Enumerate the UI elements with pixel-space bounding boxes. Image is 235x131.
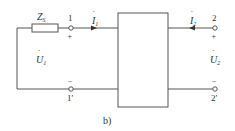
terminal-2-prime-label: 2′ [211,93,218,103]
terminal-1-prime [69,87,73,91]
terminal-1-prime-label: 1′ [67,93,74,103]
two-port-network-box [118,13,168,107]
two-port-circuit: ZS 1 + − 1′ · U1 · I1 2 + − 2′ · U2 · I2… [0,0,235,131]
current-i1-label: I1 [91,15,98,27]
voltage-u1-label: U1 [36,54,46,66]
current-i2-label: I2 [189,15,196,27]
port2-plus-sign: + [212,32,217,41]
impedance-label: ZS [37,11,46,23]
port2-minus-sign: − [212,77,217,86]
terminal-2-label: 2 [212,13,217,23]
voltage-u2-label: U2 [210,54,220,66]
terminal-2-prime [213,87,217,91]
terminal-1-label: 1 [68,13,73,23]
port1-minus-sign: − [68,77,73,86]
terminal-2 [213,26,217,30]
impedance-zs [32,24,58,32]
terminal-1 [69,26,73,30]
figure-caption: b) [103,115,111,127]
port1-plus-sign: + [68,32,73,41]
